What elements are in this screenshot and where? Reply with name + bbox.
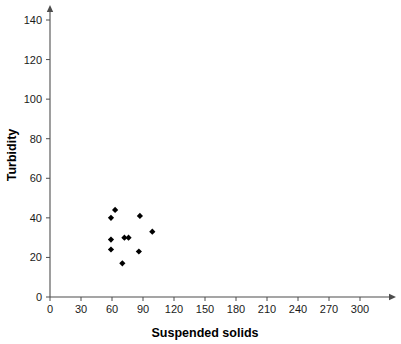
- y-tick-label: 80: [30, 133, 42, 145]
- data-point-marker: [136, 248, 142, 254]
- x-tick-label: 90: [137, 303, 149, 315]
- y-tick-label: 40: [30, 212, 42, 224]
- y-axis-title: Turbidity: [5, 129, 19, 182]
- y-tick-label: 140: [24, 14, 42, 26]
- y-tick-label: 120: [24, 54, 42, 66]
- data-point-marker: [137, 213, 143, 219]
- y-axis-arrow-icon: [47, 5, 53, 12]
- y-tick-label: 100: [24, 93, 42, 105]
- x-tick-label: 300: [351, 303, 369, 315]
- x-tick-label: 240: [289, 303, 307, 315]
- x-tick-label: 60: [106, 303, 118, 315]
- x-axis-title: Suspended solids: [152, 326, 259, 340]
- x-axis: 0306090120150180210240270300: [47, 294, 396, 315]
- x-tick-label: 150: [196, 303, 214, 315]
- data-point-marker: [108, 246, 114, 252]
- data-point-marker: [119, 260, 125, 266]
- x-tick-label: 270: [320, 303, 338, 315]
- data-points: [108, 207, 156, 267]
- data-point-marker: [108, 215, 114, 221]
- y-tick-label: 20: [30, 251, 42, 263]
- y-tick-label: 60: [30, 172, 42, 184]
- x-tick-label: 180: [227, 303, 245, 315]
- scatter-chart: 020406080100120140 030609012015018021024…: [0, 0, 401, 344]
- x-tick-label: 120: [165, 303, 183, 315]
- x-tick-label: 30: [75, 303, 87, 315]
- plot-area: 020406080100120140 030609012015018021024…: [0, 0, 401, 344]
- data-point-marker: [112, 207, 118, 213]
- data-point-marker: [149, 229, 155, 235]
- x-tick-label: 210: [258, 303, 276, 315]
- y-tick-label: 0: [36, 291, 42, 303]
- data-point-marker: [108, 237, 114, 243]
- x-axis-arrow-icon: [389, 294, 396, 300]
- data-point-marker: [125, 235, 131, 241]
- x-tick-label: 0: [47, 303, 53, 315]
- y-axis: 020406080100120140: [24, 5, 54, 303]
